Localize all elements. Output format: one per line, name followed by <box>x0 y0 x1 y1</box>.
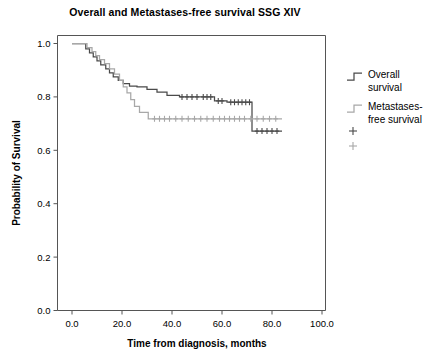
censor-mark-mfs <box>186 116 190 122</box>
censor-mark-mfs <box>227 116 231 122</box>
legend-symbol-metastases-free <box>347 105 362 112</box>
x-tick-label: 0.0 <box>65 318 78 329</box>
censor-mark-overall <box>270 128 274 134</box>
legend-censor-mfs <box>349 142 357 150</box>
censor-mark-mfs <box>242 116 246 122</box>
legend-symbol-overall <box>347 73 362 80</box>
censor-mark-mfs <box>162 116 166 122</box>
censor-mark-overall <box>229 99 233 105</box>
censor-mark-mfs <box>152 116 156 122</box>
censor-mark-overall <box>255 128 259 134</box>
censoring-marks <box>152 94 279 134</box>
censor-mark-overall <box>180 94 184 100</box>
censor-mark-overall <box>275 128 279 134</box>
x-tick-label: 60.0 <box>213 318 232 329</box>
censor-mark-overall <box>247 99 251 105</box>
y-tick-label: 0.8 <box>37 91 50 102</box>
chart-root: Overall and Metastases-free survival SSG… <box>0 0 445 363</box>
censor-mark-overall <box>232 99 236 105</box>
y-tick-label: 0.4 <box>37 198 50 209</box>
censor-mark-overall <box>209 94 213 100</box>
legend-label-overall-line2: survival <box>368 82 402 93</box>
censor-mark-mfs <box>232 116 236 122</box>
y-tick-label: 0.0 <box>37 305 50 316</box>
censor-mark-mfs <box>205 116 209 122</box>
censor-mark-mfs <box>180 116 184 122</box>
censor-mark-overall <box>265 128 269 134</box>
censor-mark-mfs <box>217 116 221 122</box>
censor-mark-mfs <box>261 116 265 122</box>
censor-mark-mfs <box>192 116 196 122</box>
y-axis-title: Probability of Survival <box>11 120 22 226</box>
censor-mark-mfs <box>222 116 226 122</box>
y-tick-label: 0.6 <box>37 145 50 156</box>
censor-mark-mfs <box>199 116 203 122</box>
plot-axes <box>58 36 326 311</box>
censor-mark-overall <box>240 99 244 105</box>
y-tick-label: 1.0 <box>37 38 50 49</box>
x-axis-title: Time from diagnosis, months <box>127 338 267 349</box>
censor-mark-mfs <box>267 116 271 122</box>
censor-mark-overall <box>220 98 224 104</box>
legend-label-metastases-free: Metastases- <box>368 101 422 112</box>
censor-mark-overall <box>205 94 209 100</box>
censor-mark-overall <box>190 94 194 100</box>
censor-mark-mfs <box>255 116 259 122</box>
x-tick-label: 80.0 <box>263 318 282 329</box>
x-tick-label: 40.0 <box>163 318 182 329</box>
x-tick-label: 20.0 <box>113 318 132 329</box>
plot-frame <box>58 36 326 311</box>
censor-mark-overall <box>236 99 240 105</box>
censor-mark-mfs <box>274 116 278 122</box>
axis-ticks: 0.00.20.40.60.81.00.020.040.060.080.0100… <box>37 38 334 329</box>
censor-mark-mfs <box>157 116 161 122</box>
censor-mark-overall <box>195 94 199 100</box>
survival-plot: 0.00.20.40.60.81.00.020.040.060.080.0100… <box>0 0 445 363</box>
censor-mark-mfs <box>174 116 178 122</box>
censor-mark-overall <box>260 128 264 134</box>
censor-mark-overall <box>216 98 220 104</box>
legend-label-metastases-free-line2: free survival <box>368 114 422 125</box>
censor-mark-overall <box>201 94 205 100</box>
curve-metastases-free-survival <box>72 44 282 119</box>
censor-mark-mfs <box>167 116 171 122</box>
y-tick-label: 0.2 <box>37 252 50 263</box>
x-tick-label: 100.0 <box>310 318 334 329</box>
chart-legend: OverallsurvivalMetastases-free survival <box>347 69 422 150</box>
censor-mark-overall <box>185 94 189 100</box>
censor-mark-overall <box>244 99 248 105</box>
censor-mark-mfs <box>211 116 215 122</box>
legend-label-overall: Overall <box>368 69 400 80</box>
legend-censor-overall <box>349 127 357 135</box>
censor-mark-mfs <box>237 116 241 122</box>
